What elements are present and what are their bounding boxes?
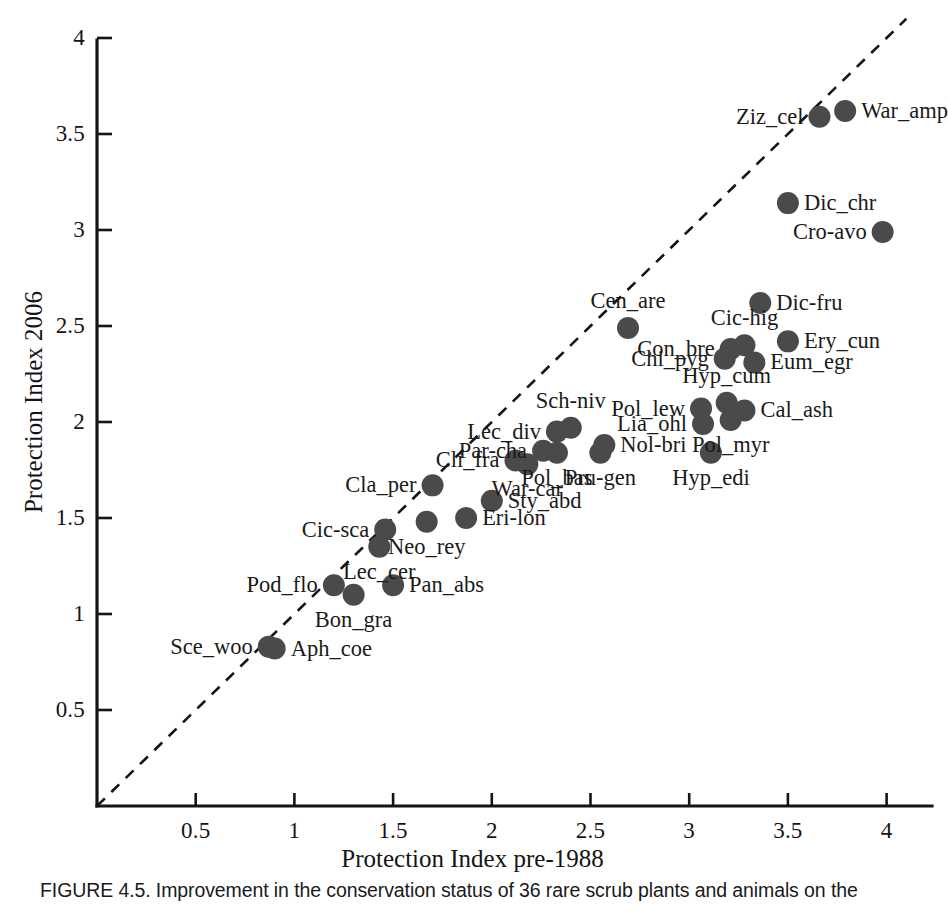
x-tick-label: 2.5 — [576, 818, 605, 844]
data-point — [777, 192, 799, 214]
y-tick-label: 4 — [13, 25, 85, 51]
data-point-label: Sch-niv — [536, 389, 606, 412]
data-point-label: Pol_myr — [692, 434, 770, 457]
data-point-label: Cal_ash — [760, 399, 833, 422]
data-point — [343, 584, 365, 606]
data-point-label: War_amp — [861, 100, 948, 123]
data-point — [617, 317, 639, 339]
data-point-label: Lia_ohl — [617, 413, 687, 436]
data-point-label: Dic_chr — [804, 192, 876, 215]
x-axis-title: Protection Index pre-1988 — [0, 845, 945, 873]
y-tick-label: 3 — [13, 217, 85, 243]
data-point-label: Aph_coe — [291, 637, 372, 660]
data-point — [546, 442, 568, 464]
data-point — [808, 106, 830, 128]
data-point-label: Hyp_edi — [672, 467, 750, 490]
x-tick-label: 2 — [486, 818, 498, 844]
data-point — [323, 574, 345, 596]
data-point-label: Ziz_cel — [736, 105, 803, 128]
data-point — [834, 100, 856, 122]
data-point-label: Ery_cun — [804, 330, 880, 353]
data-point-label: Cen_are — [591, 289, 666, 312]
x-tick-label: 3 — [683, 818, 695, 844]
data-point-label: Eum_egr — [770, 351, 852, 374]
y-axis-title: Protection Index 2006 — [20, 242, 48, 562]
y-tick-label: 0.5 — [13, 697, 85, 723]
data-point-label: Sce_woo — [170, 635, 253, 658]
data-point — [455, 507, 477, 529]
data-point-label: Cro-avo — [793, 221, 867, 244]
data-point — [720, 409, 742, 431]
data-point-label: Pru-gen — [565, 467, 636, 490]
x-tick-label: 4 — [881, 818, 893, 844]
data-point-label: Nol-bri — [620, 434, 686, 457]
data-point-label: Pod_flo — [247, 574, 318, 597]
data-point-label: Neo_rey — [388, 536, 465, 559]
x-tick-label: 0.5 — [181, 818, 210, 844]
data-point — [560, 417, 582, 439]
data-point-label: Cic-hig — [711, 307, 779, 330]
x-tick-label: 1.5 — [378, 818, 407, 844]
x-tick-label: 3.5 — [773, 818, 802, 844]
figure-caption: FIGURE 4.5. Improvement in the conservat… — [40, 879, 930, 902]
y-tick-label: 1 — [13, 601, 85, 627]
data-point-label: Cla_per — [345, 474, 416, 497]
data-point — [872, 221, 894, 243]
y-tick-label: 3.5 — [13, 121, 85, 147]
data-point-label: Pan_abs — [409, 574, 484, 597]
data-point-label: Lec_cer — [343, 561, 415, 584]
data-point — [416, 511, 438, 533]
data-point — [593, 434, 615, 456]
data-point-label: Dic-fru — [776, 292, 842, 315]
data-point-label: Lec_div — [467, 420, 541, 443]
data-point-label: Bon_gra — [315, 609, 393, 632]
data-point — [264, 638, 286, 660]
data-point-label: Chi_pyg — [631, 347, 709, 370]
x-tick-label: 1 — [289, 818, 301, 844]
data-point — [422, 474, 444, 496]
data-point-label: Cic-sca — [302, 518, 369, 541]
